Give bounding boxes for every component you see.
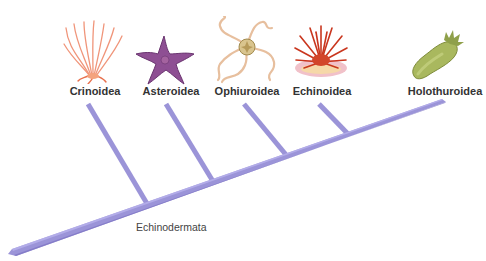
- taxon-label-crinoidea: Crinoidea: [70, 85, 121, 97]
- brittle-star-icon: [214, 16, 278, 84]
- sea-urchin-icon: [292, 22, 350, 80]
- crinoid-icon: [60, 18, 130, 84]
- sea-cucumber-icon: [408, 30, 468, 82]
- branch-ophiuroidea: [244, 104, 287, 156]
- taxon-label-echinoidea: Echinoidea: [293, 85, 352, 97]
- taxon-label-holothuroidea: Holothuroidea: [408, 85, 483, 97]
- echinoderm-cladogram: Crinoidea Asteroidea Ophiuroidea Echinoi…: [0, 0, 486, 261]
- taxon-label-ophiuroidea: Ophiuroidea: [215, 85, 280, 97]
- branch-asteroidea: [166, 104, 214, 183]
- taxon-label-asteroidea: Asteroidea: [143, 85, 200, 97]
- branch-crinoidea: [88, 104, 149, 207]
- clade-label-echinodermata: Echinodermata: [136, 221, 207, 233]
- main-trunk: [8, 99, 446, 256]
- branch-echinoidea: [319, 104, 348, 134]
- sea-star-icon: [136, 34, 196, 86]
